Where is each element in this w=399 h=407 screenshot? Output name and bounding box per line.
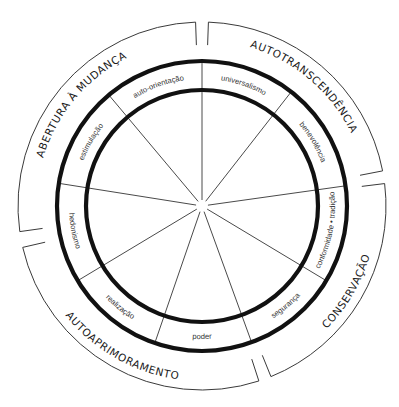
group-label-conservacao: CONSERVAÇÃO — [319, 252, 372, 330]
bracket-autotranscendencia — [208, 22, 383, 175]
value-label-hedonismo: hedonismo — [67, 212, 83, 250]
group-label-abertura-a-mudanca: ABERTURA À MUDANÇA — [33, 49, 128, 159]
spoke-line — [109, 95, 198, 201]
values-circle-diagram: universalismobenevolênciaconformidade • … — [0, 0, 399, 407]
spoke-line — [59, 183, 196, 205]
bracket-conservacao — [262, 184, 386, 377]
bracket-abertura-a-mudanca — [18, 22, 196, 231]
spoke-line — [78, 209, 197, 281]
spoke-line — [206, 92, 292, 202]
spoke-line — [208, 186, 346, 205]
value-label-poder: poder — [192, 332, 212, 341]
